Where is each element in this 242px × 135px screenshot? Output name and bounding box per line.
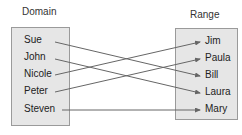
mapping-arrows [0,0,242,135]
